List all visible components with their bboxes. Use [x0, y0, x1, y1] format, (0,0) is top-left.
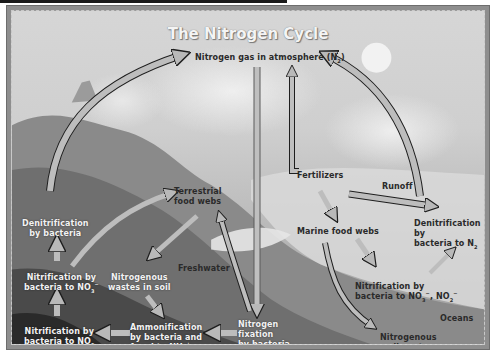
- label-sediments: Nitrogenous sedimentsfall to ocean floor: [380, 333, 484, 345]
- arrow-marine-to-nitrification: [357, 239, 372, 261]
- label-fertilizers: Fertilizers: [297, 171, 343, 181]
- top-bar: [0, 0, 287, 3]
- label-nitrification-ocean: Nitrification bybacteria to NO3−, NO2−: [355, 282, 458, 302]
- label-nitrification-no2: Nitrification bybacteria to NO2: [24, 327, 95, 345]
- label-terrestrial-food-webs: Terrestrialfood webs: [174, 187, 222, 207]
- label-denitrification-ocean: Denitrification bybacteria to N2: [414, 219, 484, 249]
- arrow-wastes-to-ammonification: [147, 296, 160, 313]
- label-ammonification: Ammonificationby bacteria andfungi to NH…: [130, 323, 202, 345]
- label-marine-food-webs: Marine food webs: [297, 227, 379, 237]
- label-freshwater: Freshwater: [178, 264, 230, 274]
- diagram-title: The Nitrogen Cycle: [12, 25, 484, 43]
- label-denitrification-land: Denitrificationby bacteria: [22, 219, 89, 239]
- arrow-nitrification-to-denitrification: [430, 251, 452, 273]
- label-atmosphere: Nitrogen gas in atmosphere (N2): [195, 53, 345, 63]
- arrow-food-webs-to-wastes: [152, 216, 197, 256]
- label-oceans: Oceans: [440, 314, 473, 324]
- label-nitrogenous-wastes: Nitrogenouswastes in soil: [108, 273, 171, 293]
- diagram-frame: The Nitrogen Cycle Nitrogen gas in atmos…: [6, 5, 490, 350]
- diagram-canvas: The Nitrogen Cycle Nitrogen gas in atmos…: [11, 10, 485, 345]
- label-runoff: Runoff: [382, 182, 413, 192]
- arrow-fertilizers-to-atmosphere: [292, 71, 299, 171]
- arrow-fertilizers-to-marine: [320, 191, 334, 216]
- label-nitrogen-fixation: Nitrogenfixationby bacteria: [238, 320, 290, 345]
- label-nitrification-no3: Nitrification bybacteria to NO3−: [24, 273, 99, 293]
